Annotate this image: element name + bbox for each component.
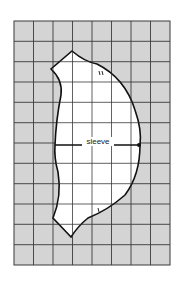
shoulder-dot — [137, 143, 141, 147]
piece-label: sleeve — [86, 137, 110, 146]
sleeve-pattern-diagram: sleeve — [0, 0, 177, 283]
